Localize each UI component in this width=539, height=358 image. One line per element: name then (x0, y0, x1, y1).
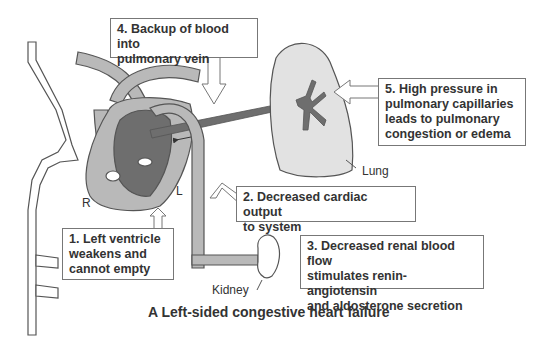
step-5-line-1: 5. High pressure in (385, 82, 519, 97)
step-4-line-2: pulmonary vein (117, 52, 251, 67)
right-side-label: R (82, 196, 91, 210)
kidney-label: Kidney (212, 283, 249, 297)
step-2-line-1: 2. Decreased cardiac output (243, 190, 409, 220)
step-2-callout: 2. Decreased cardiac output to system (236, 186, 416, 222)
figure-caption: A Left-sided congestive heart failure (148, 304, 389, 320)
step-5-line-3: leads to pulmonary (385, 112, 519, 127)
lung-label: Lung (362, 164, 389, 178)
step-3-line-2: stimulates renin-angiotensin (307, 269, 477, 299)
step-1-line-2: weakens and (69, 247, 167, 262)
step-3-line-1: 3. Decreased renal blood flow (307, 239, 477, 269)
step-1-line-3: cannot empty (69, 262, 167, 277)
step-5-line-2: pulmonary capillaries (385, 97, 519, 112)
step-2-line-2: to system (243, 220, 409, 235)
systemic-veins (28, 42, 78, 335)
step-4-callout: 4. Backup of blood into pulmonary vein (110, 18, 258, 58)
step-1-callout: 1. Left ventricle weakens and cannot emp… (62, 228, 174, 280)
step-4-line-1: 4. Backup of blood into (117, 22, 251, 52)
step-1-line-1: 1. Left ventricle (69, 232, 167, 247)
left-side-label: L (176, 184, 183, 198)
kidney (258, 235, 280, 278)
step-5-callout: 5. High pressure in pulmonary capillarie… (378, 78, 526, 146)
step-5-line-4: congestion or edema (385, 127, 519, 142)
step-3-callout: 3. Decreased renal blood flow stimulates… (300, 235, 484, 289)
